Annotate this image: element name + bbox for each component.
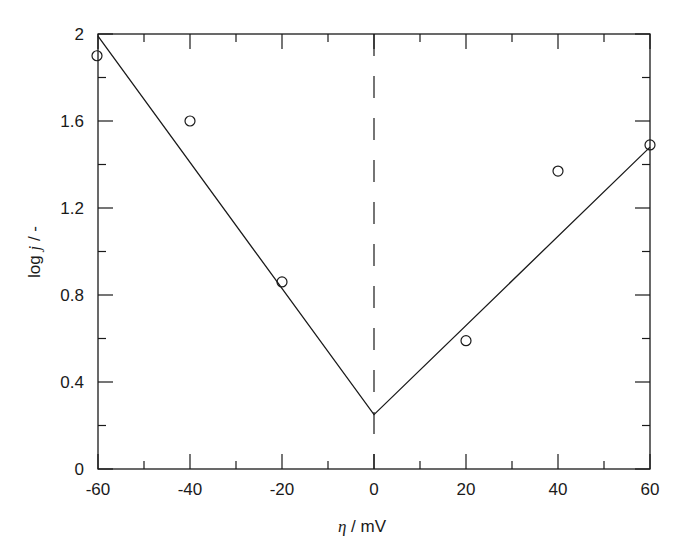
- x-axis-label-unit: / mV: [346, 517, 386, 536]
- data-point-marker: [185, 116, 195, 126]
- y-axis-label-prefix: log: [25, 251, 44, 278]
- y-tick-label: 0.8: [60, 286, 84, 305]
- data-point-marker: [92, 51, 102, 61]
- x-tick-label: -60: [86, 480, 111, 499]
- chart: -60-40-200204060 00.40.81.21.62 η / mV l…: [0, 0, 674, 558]
- x-tick-label: -20: [270, 480, 295, 499]
- y-axis-tick-labels: 00.40.81.21.62: [60, 25, 84, 479]
- y-axis-label-unit: / -: [25, 226, 44, 246]
- y-axis-label: log j / -: [25, 226, 44, 278]
- y-tick-label: 0: [75, 460, 84, 479]
- x-axis-label-symbol: η: [338, 517, 346, 536]
- x-axis-label: η / mV: [338, 517, 387, 536]
- x-tick-label: 20: [457, 480, 476, 499]
- y-tick-label: 1.2: [60, 199, 84, 218]
- y-tick-label: 1.6: [60, 112, 84, 131]
- y-tick-label: 0.4: [60, 373, 84, 392]
- x-tick-label: 0: [369, 480, 378, 499]
- data-point-marker: [461, 336, 471, 346]
- series-layer: [92, 34, 655, 469]
- data-point-marker: [277, 277, 287, 287]
- x-tick-label: -40: [178, 480, 203, 499]
- data-point-marker: [553, 166, 563, 176]
- x-tick-label: 60: [641, 480, 660, 499]
- x-axis-tick-labels: -60-40-200204060: [86, 480, 660, 499]
- x-tick-label: 40: [549, 480, 568, 499]
- y-tick-label: 2: [75, 25, 84, 44]
